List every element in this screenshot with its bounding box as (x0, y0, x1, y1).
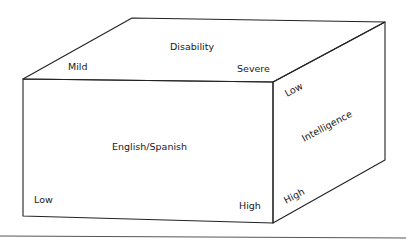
language-low-label: Low (34, 194, 53, 205)
language-high-label: High (239, 200, 261, 211)
disability-axis-title: Disability (170, 41, 214, 52)
disability-high-label: Severe (237, 63, 270, 74)
bottom-rule (0, 236, 406, 238)
intelligence-low-label: Low (283, 80, 305, 99)
language-axis-title: English/Spanish (112, 141, 187, 152)
cube-diagram: Disability Mild Severe English/Spanish L… (0, 0, 406, 242)
intelligence-axis-title: Intelligence (300, 108, 354, 144)
intelligence-high-label: High (282, 186, 306, 206)
disability-low-label: Mild (68, 61, 88, 72)
